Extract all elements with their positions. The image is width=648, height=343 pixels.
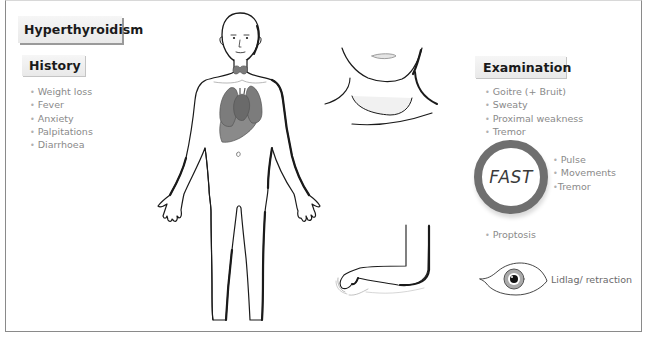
arm-tremor-icon [336,225,429,295]
list-item: Tremor [553,181,616,194]
list-item: Sweaty [485,99,583,112]
fast-list: Pulse Movements Tremor [553,154,616,194]
examination-heading: Examination [475,56,566,78]
illustrations [0,0,648,343]
eye-caption: Lidlag/ retraction [551,274,632,285]
list-item: Pulse [553,154,616,167]
list-item: Proximal weakness [485,113,583,126]
body-figure-icon [158,13,320,320]
list-item: Weight loss [30,86,93,99]
list-item: Movements [553,167,616,180]
page-title: Hyperthyroidism [18,16,122,43]
list-item: Fever [30,99,93,112]
fast-label: FAST [489,167,533,187]
list-item: Tremor [485,126,583,139]
history-list: Weight loss Fever Anxiety Palpitations D… [30,86,93,152]
examination-list: Goitre (+ Bruit) Sweaty Proximal weaknes… [485,86,583,139]
history-heading: History [22,55,85,76]
list-item: Palpitations [30,126,93,139]
list-item: Diarrhoea [30,139,93,152]
list-item: Goitre (+ Bruit) [485,86,583,99]
list-item: Proptosis [485,229,536,242]
fast-circle: FAST [474,140,548,214]
proptosis-list: Proptosis [485,229,536,242]
neck-goitre-icon [325,48,437,125]
list-item: Anxiety [30,113,93,126]
eye-icon [480,263,547,295]
